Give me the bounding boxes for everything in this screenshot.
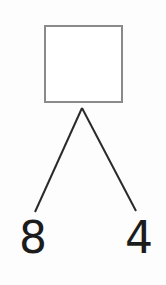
number-bond-diagram: 8 4 bbox=[0, 0, 166, 285]
part-left: 8 bbox=[19, 214, 47, 262]
left-branch-line bbox=[35, 108, 82, 212]
right-branch-line bbox=[82, 108, 136, 211]
part-right: 4 bbox=[125, 214, 153, 262]
